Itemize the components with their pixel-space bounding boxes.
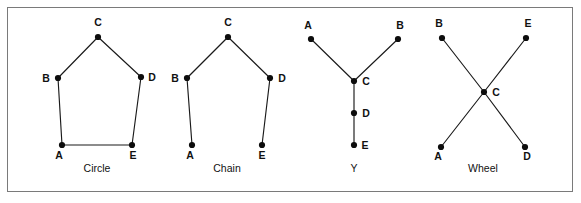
node-label-E: E (129, 149, 136, 161)
node-label-E: E (361, 139, 368, 151)
node-label-A: A (304, 19, 312, 31)
node-label-A: A (186, 149, 194, 161)
node-label-D: D (148, 71, 156, 83)
edge-C-D (484, 92, 525, 147)
edge-B-C (187, 37, 228, 78)
node-label-B: B (171, 72, 179, 84)
node-E (351, 142, 357, 148)
node-B (439, 35, 445, 41)
network-caption-chain: Chain (213, 162, 241, 174)
node-label-D: D (523, 150, 531, 162)
edge-B-C (442, 38, 484, 92)
edge-B-C (354, 39, 398, 81)
node-label-C: C (362, 75, 370, 87)
node-C (481, 89, 487, 95)
node-C (351, 78, 357, 84)
edge-D-E (262, 78, 270, 145)
node-label-C: C (492, 86, 500, 98)
node-label-D: D (278, 72, 286, 84)
network-y: ABCDEY (304, 19, 404, 174)
node-label-B: B (435, 17, 443, 29)
edge-C-E (484, 38, 526, 92)
node-D (351, 110, 357, 116)
node-E (129, 142, 135, 148)
node-label-C: C (224, 16, 232, 28)
network-caption-wheel: Wheel (468, 162, 498, 174)
node-A (189, 142, 195, 148)
edge-C-D (98, 37, 141, 77)
node-C (225, 34, 231, 40)
node-D (267, 75, 273, 81)
node-B (395, 36, 401, 42)
node-B (184, 75, 190, 81)
node-D (138, 74, 144, 80)
network-diagrams-canvas: ABCDECircleABCDEChainABCDEYABCDEWheel (0, 0, 581, 203)
network-chain: ABCDEChain (171, 16, 286, 174)
node-A (59, 142, 65, 148)
node-label-C: C (94, 16, 102, 28)
node-B (55, 75, 61, 81)
edge-A-C (311, 39, 354, 81)
edge-A-B (58, 78, 62, 145)
edge-A-B (187, 78, 192, 145)
network-caption-y: Y (350, 162, 357, 174)
node-E (523, 35, 529, 41)
node-label-D: D (362, 107, 370, 119)
node-label-A: A (55, 149, 63, 161)
edge-D-E (132, 77, 141, 145)
node-label-B: B (396, 19, 404, 31)
network-caption-circle: Circle (84, 162, 111, 174)
network-circle: ABCDECircle (42, 16, 156, 174)
edge-A-C (441, 92, 484, 147)
node-label-A: A (434, 150, 442, 162)
node-label-B: B (42, 72, 50, 84)
node-E (259, 142, 265, 148)
node-A (308, 36, 314, 42)
node-C (95, 34, 101, 40)
node-label-E: E (524, 17, 531, 29)
node-label-E: E (258, 149, 265, 161)
edge-C-D (228, 37, 270, 78)
edge-B-C (58, 37, 98, 78)
networks-group: ABCDECircleABCDEChainABCDEYABCDEWheel (42, 16, 531, 174)
network-wheel: ABCDEWheel (434, 17, 531, 174)
